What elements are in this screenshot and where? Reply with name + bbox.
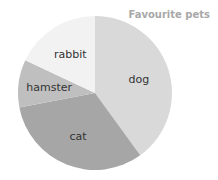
slice-label-hamster: hamster [26,81,72,94]
slice-label-dog: dog [129,73,150,86]
slice-label-rabbit: rabbit [54,48,87,61]
slice-label-cat: cat [69,130,87,143]
pie-chart: dogcathamsterrabbit [0,0,218,180]
